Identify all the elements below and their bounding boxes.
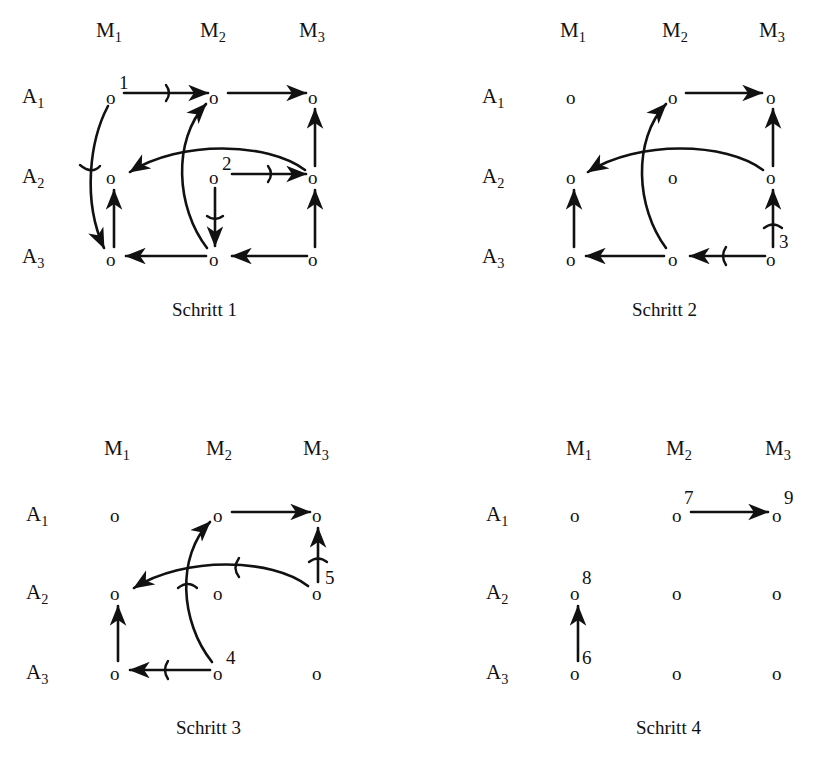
node-number-2: 2 [222,154,232,173]
node-a3-m1: o [106,250,116,269]
node-a3-m1: o [566,250,576,269]
node-a3-m3: o [312,664,322,683]
node-a3-m2: o [213,664,223,683]
node-a3-m1: o [570,664,580,683]
node-a1-m2: o [672,506,682,525]
node-a1-m3: o [312,506,322,525]
node-a2-m3: o [766,168,776,187]
node-a1-m1: o [106,88,116,107]
node-number-8: 8 [582,568,592,587]
node-a1-m2: o [213,506,223,525]
panel-1-diagram [0,0,410,290]
node-a2-m3: o [308,168,318,187]
node-a2-m2: o [209,168,219,187]
panel-schritt-3: M1 M2 M3 A1 A2 A3 [0,410,410,784]
edge-a3m2-a1m2-curve [182,104,207,248]
panel-schritt-4: M1 M2 M3 A1 A2 A3 o o 7 o 9 o 8 o o [410,410,814,784]
node-a2-m2: o [668,168,678,187]
panel-1-caption: Schritt 1 [172,300,237,319]
panel-2-caption: Schritt 2 [632,300,697,319]
node-a2-m1: o [570,584,580,603]
panel-schritt-2: M1 M2 M3 A1 A2 A3 [410,0,814,340]
node-a3-m1: o [110,664,120,683]
panel-schritt-1: M1 M2 M3 A1 A2 A3 [0,0,410,340]
panel-4-diagram [410,410,814,730]
node-a2-m1: o [106,168,116,187]
node-a1-m3: o [308,88,318,107]
edge-tick-a2m3-a2m1 [236,558,240,577]
node-number-9: 9 [784,488,794,507]
node-a3-m3: o [766,250,776,269]
node-number-1: 1 [119,73,129,92]
node-number-4: 4 [226,648,236,667]
node-a2-m1: o [110,584,120,603]
node-a1-m1: o [566,88,576,107]
panel-4-caption: Schritt 4 [636,718,701,737]
node-a2-m3: o [312,584,322,603]
node-a3-m2: o [672,664,682,683]
figure-root: M1 M2 M3 A1 A2 A3 [0,0,814,784]
node-a3-m2: o [668,250,678,269]
node-a2-m2: o [213,584,223,603]
edge-a3m2-a1m2-curve [642,104,666,248]
node-a3-m2: o [209,250,219,269]
node-a1-m2: o [668,88,678,107]
node-a2-m3: o [772,584,782,603]
node-a1-m2: o [209,88,219,107]
node-a3-m3: o [308,250,318,269]
node-number-5: 5 [325,568,335,587]
node-number-3: 3 [779,232,789,251]
node-a1-m3: o [772,506,782,525]
node-a2-m1: o [566,168,576,187]
node-a3-m3: o [772,664,782,683]
panel-3-diagram [0,410,410,730]
panel-2-diagram [410,0,814,290]
node-a1-m3: o [766,88,776,107]
node-number-7: 7 [684,488,694,507]
edge-a3m2-a1m2-curve [186,522,212,662]
node-a1-m1: o [570,506,580,525]
node-a2-m2: o [672,584,682,603]
panel-3-caption: Schritt 3 [176,718,241,737]
node-a1-m1: o [110,506,120,525]
node-number-6: 6 [582,648,592,667]
